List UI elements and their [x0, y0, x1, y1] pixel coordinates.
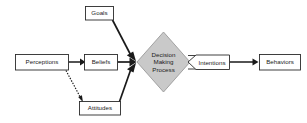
node-decision-making-process[interactable]: [137, 32, 190, 92]
flow-diagram-svg: [0, 0, 307, 123]
node-attitudes[interactable]: [80, 102, 121, 116]
diagram-canvas: Goals Perceptions Beliefs Attitudes Deci…: [0, 0, 307, 123]
connector-perceptions-to-beliefs: [69, 59, 86, 66]
node-behaviors[interactable]: [260, 55, 301, 71]
node-beliefs[interactable]: [85, 55, 118, 71]
node-perceptions[interactable]: [16, 55, 69, 71]
node-intentions[interactable]: [188, 55, 230, 70]
connector-attitudes-to-decision: [119, 63, 136, 103]
connector-intentions-to-behaviors: [230, 58, 259, 65]
connector-perceptions-to-attitudes: [66, 71, 83, 103]
node-goals[interactable]: [86, 7, 114, 21]
